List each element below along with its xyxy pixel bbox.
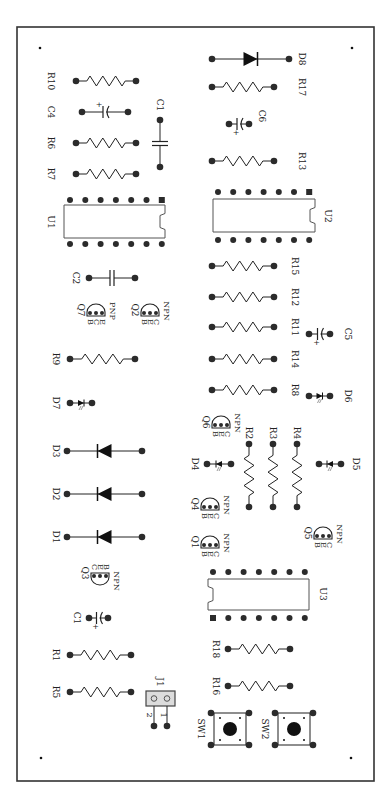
diode-d2: D2 bbox=[51, 487, 145, 501]
pad bbox=[291, 237, 297, 243]
pad bbox=[316, 461, 323, 468]
pad bbox=[67, 197, 73, 203]
pin-label: C bbox=[212, 551, 221, 557]
resistor-symbol bbox=[212, 385, 274, 395]
ref-label: Q6 bbox=[201, 415, 211, 428]
pad bbox=[294, 441, 301, 448]
ref-label: R12 bbox=[290, 288, 300, 306]
type-label: NPN bbox=[222, 495, 231, 514]
type-label: NPN bbox=[112, 571, 121, 590]
pin-label: C bbox=[223, 431, 232, 437]
diode-d3: D3 bbox=[51, 444, 145, 458]
transistor-q1: BECQ1NPN bbox=[190, 533, 231, 557]
pad bbox=[82, 241, 88, 247]
ref-label: R13 bbox=[297, 152, 307, 171]
pad bbox=[105, 615, 112, 622]
resistor-symbol bbox=[212, 156, 274, 166]
capacitors: C1C2+C4+C6+C5+C1 bbox=[46, 99, 353, 631]
pad bbox=[302, 569, 308, 575]
ref-label: C6 bbox=[257, 110, 267, 123]
transistor-q2: BECQ2NPN bbox=[130, 301, 171, 325]
pad bbox=[271, 356, 278, 363]
resistor-symbol bbox=[70, 354, 135, 364]
resistor-r5: R5 bbox=[51, 686, 134, 699]
pad bbox=[246, 504, 253, 511]
ref-label: R4 bbox=[292, 427, 302, 440]
resistor-r7: R7 bbox=[46, 168, 139, 181]
switch-button-icon[interactable] bbox=[223, 722, 237, 736]
pad bbox=[241, 615, 247, 621]
pad bbox=[209, 263, 216, 270]
resistor-symbol bbox=[76, 169, 136, 179]
ref-label: R1 bbox=[51, 649, 61, 662]
pad bbox=[302, 615, 308, 621]
led-icon bbox=[216, 461, 222, 467]
pad bbox=[272, 710, 279, 717]
pad bbox=[245, 237, 251, 243]
switch-sw1[interactable]: SW1 bbox=[196, 710, 252, 749]
pad bbox=[209, 356, 216, 363]
ref-label: R17 bbox=[297, 78, 307, 97]
pad bbox=[210, 569, 216, 575]
switch-sw2[interactable]: SW2 bbox=[260, 710, 316, 749]
polarity-plus: + bbox=[92, 622, 99, 631]
pad bbox=[256, 569, 262, 575]
pad bbox=[338, 461, 345, 468]
resistor-symbol bbox=[292, 444, 302, 507]
resistor-r16: R16 bbox=[211, 677, 293, 696]
pad bbox=[159, 241, 165, 247]
capacitor-c6: +C6 bbox=[226, 110, 267, 137]
pad bbox=[113, 197, 119, 203]
pad bbox=[287, 569, 293, 575]
polarity-plus: + bbox=[313, 338, 320, 347]
pad bbox=[327, 331, 334, 338]
resistor-symbol bbox=[70, 687, 131, 697]
led-d7: D7 bbox=[51, 397, 95, 410]
pad bbox=[133, 140, 140, 147]
transistor-q3: CEBQ3NPN bbox=[80, 564, 121, 591]
resistor-r1: R1 bbox=[51, 649, 134, 662]
resistor-r10: R10 bbox=[46, 72, 139, 91]
resistor-r4: R4 bbox=[292, 427, 302, 511]
pad bbox=[133, 171, 140, 178]
transistor-q5: BECQ5NPN bbox=[303, 524, 344, 548]
resistor-r15: R15 bbox=[209, 257, 300, 276]
transistors: BCEQ7PNPBECQ2NPNBECQ6NPNBECQ4NPNBECQ1NPN… bbox=[76, 301, 344, 590]
capacitor-c4: +C4 bbox=[46, 100, 131, 119]
ref-label: SW2 bbox=[260, 718, 270, 739]
transistor-q4: BECQ4NPN bbox=[190, 495, 231, 519]
resistor-r18: R18 bbox=[211, 640, 293, 659]
mounting-hole bbox=[39, 47, 42, 50]
type-label: NPN bbox=[222, 533, 231, 552]
pad bbox=[270, 504, 277, 511]
ref-label: U3 bbox=[318, 587, 328, 601]
pad bbox=[132, 275, 139, 282]
pad bbox=[209, 324, 216, 331]
capacitor-c5: +C5 bbox=[306, 328, 353, 347]
diodes: D8D3D2D1 bbox=[51, 52, 307, 544]
type-label: NPN bbox=[335, 524, 344, 543]
ref-label: D3 bbox=[51, 445, 61, 458]
pad bbox=[79, 109, 86, 116]
ref-label: Q3 bbox=[80, 566, 90, 579]
resistor-r17: R17 bbox=[209, 78, 307, 97]
pad bbox=[132, 356, 139, 363]
ref-label: C2 bbox=[71, 272, 81, 285]
pin-label: B bbox=[102, 564, 111, 570]
ref-label: Q4 bbox=[190, 497, 200, 510]
pad bbox=[245, 189, 251, 195]
ref-label: D5 bbox=[351, 458, 361, 471]
pad bbox=[226, 121, 233, 128]
transistor-q7: BCEQ7PNP bbox=[76, 302, 117, 325]
ic-u1: U1 bbox=[46, 197, 165, 247]
pad bbox=[271, 615, 277, 621]
ref-label: U2 bbox=[323, 209, 333, 222]
ref-label: Q2 bbox=[130, 303, 140, 316]
pad bbox=[139, 491, 146, 498]
switch-button-icon[interactable] bbox=[287, 722, 301, 736]
pad bbox=[271, 387, 278, 394]
led-icon bbox=[78, 400, 84, 406]
pad bbox=[82, 197, 88, 203]
pad bbox=[73, 140, 80, 147]
pad bbox=[246, 710, 253, 717]
